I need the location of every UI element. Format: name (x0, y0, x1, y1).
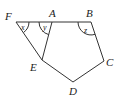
segment-bc (91, 22, 104, 61)
angle-label-y: y (42, 23, 47, 32)
segment-de (42, 60, 73, 82)
angle-label-z: z (83, 26, 88, 35)
segment-ef (16, 22, 42, 60)
segment-cd (73, 61, 104, 82)
point-label-b: B (86, 7, 93, 19)
angle-label-x: x (20, 23, 25, 32)
geometry-diagram: x y z F A B C D E (0, 0, 119, 97)
point-label-c: C (106, 56, 114, 68)
point-label-f: F (4, 10, 12, 22)
point-label-e: E (29, 61, 37, 73)
point-label-a: A (48, 7, 56, 19)
point-label-d: D (68, 85, 77, 97)
